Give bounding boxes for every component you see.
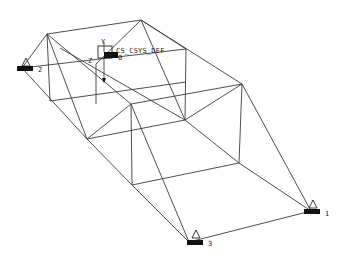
member-e-pnt1[interactable] (242, 84, 311, 211)
member-a-b[interactable] (47, 20, 141, 34)
member-a-j[interactable] (47, 34, 131, 104)
support-pnt1[interactable]: 1 (304, 200, 329, 218)
member-a-pnt2[interactable] (22, 34, 47, 68)
wireframe-viewport[interactable]: Y Z 0 CS_CSYS_DEF 2 1 3 (0, 0, 343, 263)
csys-axis-z-label: Z (88, 57, 92, 65)
truss-frame (22, 20, 311, 242)
support-triangle-icon (309, 200, 317, 208)
member-i-g[interactable] (132, 163, 239, 185)
member-i-pnt3[interactable] (132, 185, 189, 242)
support-label: 2 (38, 66, 42, 74)
csys-name-label: CS_CSYS_DEF (116, 47, 165, 55)
member-j-i[interactable] (131, 104, 132, 185)
support-label: 1 (325, 210, 329, 218)
member-h-i[interactable] (87, 139, 132, 185)
member-b-f[interactable] (141, 20, 185, 120)
member-f-g[interactable] (185, 120, 239, 163)
member-a-f[interactable] (60, 48, 185, 120)
member-e-g[interactable] (239, 84, 242, 163)
member-h-j[interactable] (87, 104, 131, 139)
member-pnt3-pnt1[interactable] (189, 211, 311, 242)
csys-axis-y-label: Y (101, 38, 106, 46)
support-label: 3 (208, 240, 212, 248)
csys-marker-label: 0 (118, 54, 122, 62)
member-a-k[interactable] (47, 34, 50, 101)
support-triangle-icon (192, 230, 200, 238)
support-label-highlight (187, 240, 203, 245)
member-d-f[interactable] (185, 49, 186, 120)
member-h-f[interactable] (87, 120, 185, 139)
member-g-pnt1[interactable] (239, 163, 311, 211)
support-pnt2[interactable]: 2 (17, 58, 42, 74)
support-label-highlight (304, 209, 320, 214)
support-label-highlight (17, 66, 33, 71)
member-pnt2-h[interactable] (22, 68, 87, 139)
member-a-h[interactable] (47, 34, 87, 139)
